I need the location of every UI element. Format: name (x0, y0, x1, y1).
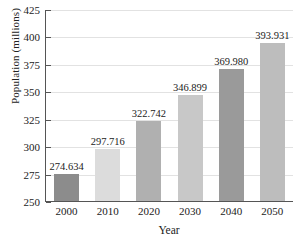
x-axis-tick-label: 2020 (128, 205, 169, 217)
bar-slot: 346.899 (170, 10, 211, 201)
bar[interactable] (95, 149, 120, 201)
bar-value-label: 274.634 (50, 161, 84, 172)
bar-slot: 322.742 (128, 10, 169, 201)
y-axis-title: Population (millions) (9, 0, 21, 141)
y-axis-tick-label: 250 (24, 196, 41, 208)
y-axis-tick-label: 325 (24, 114, 41, 126)
bar-series: 274.634297.716322.742346.899369.980393.9… (46, 10, 293, 201)
x-axis-tick-labels: 200020102020203020402050 (46, 205, 293, 217)
bar-slot: 393.931 (252, 10, 293, 201)
y-axis-tick (46, 202, 51, 203)
x-axis-title: Year (45, 224, 293, 236)
bar-value-label: 297.716 (91, 136, 125, 147)
bar[interactable] (178, 95, 203, 201)
x-axis-tick-label: 2030 (170, 205, 211, 217)
plot-area: 250275300325350375400425 274.634297.7163… (45, 10, 293, 202)
y-axis-tick-label: 400 (24, 31, 41, 43)
x-axis-tick-label: 2000 (46, 205, 87, 217)
y-axis-tick-label: 275 (24, 169, 41, 181)
y-axis-tick-label: 425 (24, 4, 41, 16)
x-axis-tick-label: 2050 (252, 205, 293, 217)
bar[interactable] (260, 43, 285, 201)
y-axis-tick-label: 375 (24, 59, 41, 71)
x-axis-line (45, 201, 293, 202)
bar[interactable] (136, 121, 161, 201)
bar[interactable] (219, 69, 244, 201)
bar-value-label: 393.931 (255, 30, 289, 41)
x-axis-tick-label: 2010 (87, 205, 128, 217)
bar-value-label: 322.742 (132, 108, 166, 119)
bar-slot: 274.634 (46, 10, 87, 201)
bar-value-label: 369.980 (214, 56, 248, 67)
bar-slot: 297.716 (87, 10, 128, 201)
bar-slot: 369.980 (211, 10, 252, 201)
y-axis-tick-label: 300 (24, 141, 41, 153)
bar-value-label: 346.899 (173, 82, 207, 93)
y-axis-tick-label: 350 (24, 86, 41, 98)
bar[interactable] (54, 174, 79, 201)
bar-chart: Population (millions) 250275300325350375… (0, 0, 300, 246)
x-axis-tick-label: 2040 (211, 205, 252, 217)
